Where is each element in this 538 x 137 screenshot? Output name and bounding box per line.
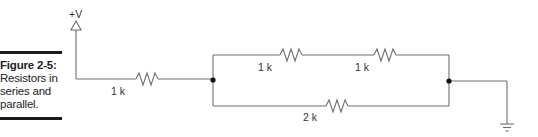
supply-arrow-icon xyxy=(71,21,81,30)
resistor-r1-icon xyxy=(136,73,158,85)
r1-label: 1 k xyxy=(111,85,126,97)
r3-label: 1 k xyxy=(355,61,370,73)
resistor-r3-icon xyxy=(374,49,396,61)
supply-label: +V xyxy=(69,8,82,20)
r2-label: 1 k xyxy=(258,61,273,73)
junction-left-icon xyxy=(210,77,215,82)
ground-icon xyxy=(500,124,514,131)
circuit-diagram: +V 1 k 1 k 1 k 2 k xyxy=(0,0,538,137)
resistor-r4-icon xyxy=(326,100,348,112)
resistor-r2-icon xyxy=(280,49,302,61)
r4-label: 2 k xyxy=(303,111,318,123)
junction-right-icon xyxy=(446,78,451,83)
